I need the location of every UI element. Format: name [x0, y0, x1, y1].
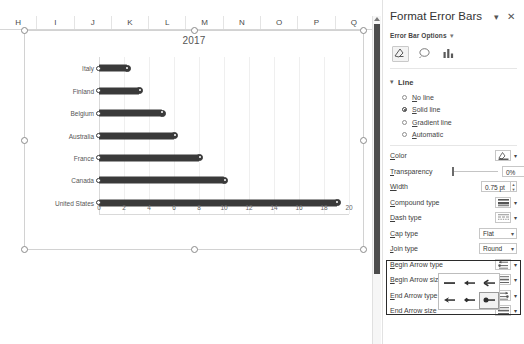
property-control-dash-type[interactable]: ▾	[495, 212, 517, 223]
line-section-header[interactable]: ▾ Line	[390, 73, 517, 91]
resize-handle-top-right[interactable]	[360, 27, 367, 34]
radio-no-line[interactable]: No line	[390, 91, 517, 104]
plot-area[interactable]: ItalyFinlandBelgiumAustraliaFranceCanada…	[99, 57, 349, 214]
vertical-scrollbar[interactable]	[372, 16, 381, 344]
property-control-join-type[interactable]: Round▾	[479, 243, 517, 254]
column-header-h[interactable]: H	[0, 16, 37, 29]
error-bar-end-cap[interactable]	[334, 199, 341, 206]
arrow-type-gallery[interactable]	[438, 273, 500, 310]
property-control-width[interactable]: 0.75 pt▲▼	[481, 181, 517, 192]
bar-belgium[interactable]	[99, 110, 162, 117]
color-swatch-button[interactable]	[495, 150, 511, 161]
error-bar-end-cap[interactable]	[124, 65, 131, 72]
width-value[interactable]: 0.75 pt	[481, 181, 511, 192]
dash-type-gallery-button[interactable]	[495, 212, 511, 223]
column-header-j[interactable]: J	[75, 16, 112, 29]
bar-italy[interactable]	[99, 65, 127, 72]
resize-handle-bottom-center[interactable]	[191, 246, 198, 253]
error-bar-end-cap[interactable]	[171, 132, 178, 139]
chart-options-icon[interactable]	[442, 47, 457, 61]
arrow-triangle-icon[interactable]	[459, 274, 479, 292]
x-tick-label: 16	[295, 204, 302, 211]
arrow-diamond-icon[interactable]	[459, 292, 479, 310]
width-stepper[interactable]: ▲▼	[511, 181, 517, 192]
radio-indicator[interactable]	[402, 95, 407, 100]
resize-handle-bottom-right[interactable]	[360, 246, 367, 253]
error-bar-end-cap[interactable]	[159, 110, 166, 117]
chevron-down-icon[interactable]: ▾	[514, 307, 517, 314]
error-bar-start-cap[interactable]	[96, 133, 101, 138]
error-bar-end-cap[interactable]	[221, 177, 228, 184]
chevron-down-icon[interactable]: ▾	[514, 292, 517, 299]
property-control-color[interactable]: ▾	[495, 150, 517, 161]
radio-indicator[interactable]	[402, 107, 407, 112]
error-bar-start-cap[interactable]	[96, 88, 101, 93]
error-bar-start-cap[interactable]	[96, 155, 101, 160]
cap-type-select[interactable]: Flat▾	[479, 228, 517, 239]
radio-indicator[interactable]	[402, 132, 407, 137]
radio-indicator[interactable]	[402, 120, 407, 125]
pane-title: Format Error Bars	[390, 10, 482, 22]
property-control-begin-arrow-type[interactable]: ▾	[495, 259, 517, 270]
chevron-down-icon[interactable]: ▾	[514, 152, 517, 159]
column-header-l[interactable]: L	[149, 16, 186, 29]
bar-france[interactable]	[99, 154, 199, 161]
column-header-i[interactable]: I	[37, 16, 74, 29]
radio-automatic[interactable]: Automatic	[390, 129, 517, 142]
gridline	[199, 57, 200, 214]
error-bar-end-cap[interactable]	[196, 154, 203, 161]
error-bar-start-cap[interactable]	[96, 111, 101, 116]
property-label-dash-type: Dash type	[390, 214, 452, 221]
bar-finland[interactable]	[99, 87, 139, 94]
arrow-none-icon[interactable]	[439, 274, 459, 292]
property-row-begin-arrow-type: Begin Arrow type▾	[390, 257, 517, 273]
radio-solid-line[interactable]: Solid line	[390, 104, 517, 117]
chevron-down-icon[interactable]: ▾	[514, 276, 517, 283]
x-axis-line: 02468101214161820	[99, 214, 349, 215]
resize-handle-middle-left[interactable]	[21, 137, 28, 144]
chevron-down-icon[interactable]: ▾	[450, 32, 454, 39]
resize-handle-top-center[interactable]	[191, 27, 198, 34]
close-icon[interactable]: ✕	[507, 11, 515, 22]
column-header-q[interactable]: Q	[336, 16, 372, 29]
transparency-slider[interactable]	[452, 166, 498, 177]
property-control-cap-type[interactable]: Flat▾	[479, 228, 517, 239]
category-label: Belgium	[71, 110, 94, 117]
error-bar-start-cap[interactable]	[96, 178, 101, 183]
resize-handle-middle-right[interactable]	[360, 137, 367, 144]
chevron-down-icon[interactable]: ▾	[514, 261, 517, 268]
property-control-transparency[interactable]: 0%▲▼	[452, 166, 524, 177]
scroll-up-arrow-icon[interactable]	[374, 17, 380, 21]
error-bar-start-cap[interactable]	[96, 66, 101, 71]
pane-subtitle-row[interactable]: Error Bar Options▾	[390, 30, 517, 43]
arrow-stealth-icon[interactable]	[439, 292, 459, 310]
effects-icon[interactable]	[418, 47, 433, 61]
column-header-n[interactable]: N	[224, 16, 261, 29]
compound-type-gallery-button[interactable]	[495, 197, 511, 208]
column-header-o[interactable]: O	[261, 16, 298, 29]
pane-icon-tabs	[390, 43, 517, 65]
bar-australia[interactable]	[99, 132, 174, 139]
column-header-k[interactable]: K	[112, 16, 149, 29]
chart-object[interactable]: 2017 ItalyFinlandBelgiumAustraliaFranceC…	[24, 30, 364, 250]
begin-arrow-type-gallery-button[interactable]	[495, 259, 511, 270]
error-bar-end-cap[interactable]	[136, 87, 143, 94]
gridline	[349, 57, 350, 214]
property-control-compound-type[interactable]: ▾	[495, 197, 517, 208]
arrow-oval-icon[interactable]	[479, 292, 499, 310]
fill-line-icon[interactable]	[392, 46, 409, 62]
resize-handle-top-left[interactable]	[21, 27, 28, 34]
arrow-open-icon[interactable]	[479, 274, 499, 292]
radio-gradient-line[interactable]: Gradient line	[390, 116, 517, 129]
chart-title[interactable]: 2017	[25, 35, 363, 46]
scrollbar-thumb[interactable]	[374, 24, 380, 274]
chevron-down-icon[interactable]: ▾	[514, 214, 517, 221]
resize-handle-bottom-left[interactable]	[21, 246, 28, 253]
format-pane: Format Error Bars ▾ ✕ Error Bar Options▾	[382, 0, 524, 344]
chevron-down-icon[interactable]: ▾	[514, 199, 517, 206]
chevron-down-icon[interactable]: ▾	[494, 12, 499, 22]
transparency-value[interactable]: 0%	[502, 166, 524, 177]
join-type-select[interactable]: Round▾	[479, 243, 517, 254]
column-header-p[interactable]: P	[298, 16, 335, 29]
bar-canada[interactable]	[99, 177, 224, 184]
